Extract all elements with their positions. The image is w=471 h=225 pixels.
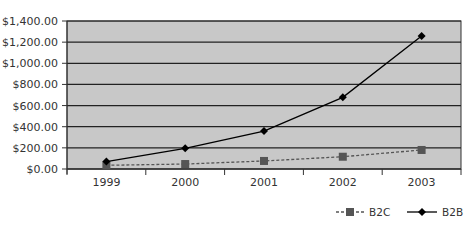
y-tick-label: $1,200.00 <box>2 36 58 49</box>
legend-b2b-diamond-marker-icon <box>418 208 426 216</box>
square-marker-icon <box>339 153 347 161</box>
y-tick-label: $400.00 <box>13 121 59 134</box>
y-axis: $0.00$200.00$400.00$600.00$800.00$1,000.… <box>2 15 67 176</box>
legend-b2b-label: B2B <box>442 206 463 218</box>
square-marker-icon <box>181 160 189 168</box>
y-tick-label: $200.00 <box>13 142 59 155</box>
x-tick-label: 2003 <box>408 176 436 189</box>
square-marker-icon <box>260 157 268 165</box>
x-tick-label: 2000 <box>171 176 199 189</box>
y-tick-label: $600.00 <box>13 100 59 113</box>
legend-b2c-label: B2C <box>369 206 390 218</box>
y-tick-label: $1,400.00 <box>2 15 58 28</box>
x-axis: 19992000200120022003 <box>67 169 461 189</box>
square-marker-icon <box>418 146 426 154</box>
legend-b2c-square-marker-icon <box>346 208 354 216</box>
line-chart: $0.00$200.00$400.00$600.00$800.00$1,000.… <box>0 0 471 225</box>
x-tick-label: 1999 <box>92 176 120 189</box>
plot-area <box>67 21 461 169</box>
y-tick-label: $0.00 <box>27 163 59 176</box>
x-tick-label: 2001 <box>250 176 278 189</box>
x-tick-label: 2002 <box>329 176 357 189</box>
legend: B2C B2B <box>336 206 463 218</box>
y-tick-label: $800.00 <box>13 78 59 91</box>
y-tick-label: $1,000.00 <box>2 57 58 70</box>
